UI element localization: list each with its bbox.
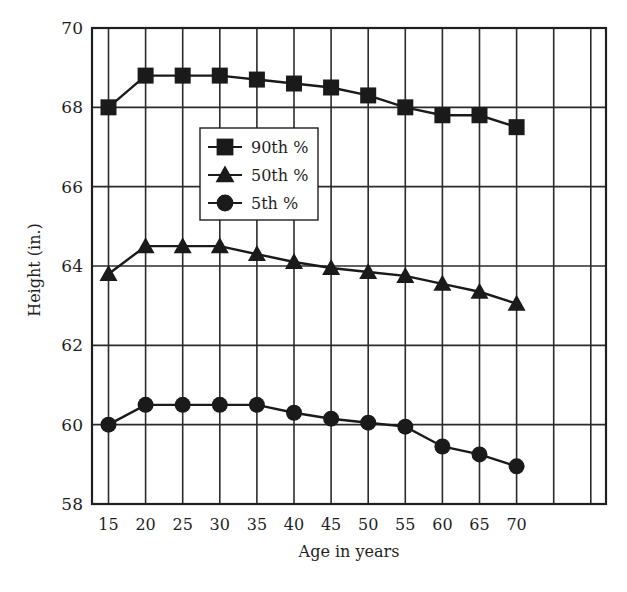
x-tick-label: 25 bbox=[173, 515, 193, 534]
series-circle bbox=[101, 397, 525, 474]
x-tick-label: 70 bbox=[506, 515, 526, 534]
circle-marker bbox=[472, 446, 488, 462]
x-tick-label: 50 bbox=[358, 515, 378, 534]
square-marker bbox=[217, 139, 234, 156]
circle-marker bbox=[138, 397, 154, 413]
y-tick-label: 58 bbox=[61, 494, 83, 514]
legend-label: 5th % bbox=[251, 194, 298, 213]
x-tick-label: 65 bbox=[469, 515, 489, 534]
x-tick-label: 40 bbox=[284, 515, 304, 534]
square-marker bbox=[175, 68, 191, 84]
x-tick-label: 35 bbox=[247, 515, 267, 534]
square-marker bbox=[434, 107, 450, 123]
y-tick-label: 62 bbox=[61, 335, 83, 355]
circle-marker bbox=[509, 458, 525, 474]
x-tick-label: 20 bbox=[135, 515, 155, 534]
square-marker bbox=[138, 68, 154, 84]
circle-marker bbox=[397, 419, 413, 435]
square-marker bbox=[323, 80, 339, 96]
circle-marker bbox=[101, 417, 117, 433]
y-tick-label: 64 bbox=[61, 256, 83, 276]
legend-label: 90th % bbox=[251, 138, 308, 157]
circle-marker bbox=[286, 405, 302, 421]
y-tick-label: 60 bbox=[61, 415, 83, 435]
circle-marker bbox=[434, 438, 450, 454]
y-tick-label: 66 bbox=[61, 177, 83, 197]
circle-marker bbox=[175, 397, 191, 413]
square-marker bbox=[101, 99, 117, 115]
square-marker bbox=[286, 76, 302, 92]
series-line bbox=[109, 246, 517, 304]
legend: 90th %50th %5th % bbox=[200, 128, 318, 220]
series-triangle bbox=[100, 237, 526, 311]
square-marker bbox=[472, 107, 488, 123]
plot-grid bbox=[92, 28, 606, 504]
circle-marker bbox=[212, 397, 228, 413]
y-tick-label: 68 bbox=[61, 97, 83, 117]
square-marker bbox=[249, 72, 265, 88]
x-tick-label: 60 bbox=[432, 515, 452, 534]
circle-marker bbox=[360, 415, 376, 431]
series-square bbox=[101, 68, 525, 136]
circle-marker bbox=[217, 195, 234, 212]
x-axis-tick-labels: 152025303540455055606570 bbox=[98, 515, 526, 534]
circle-marker bbox=[323, 411, 339, 427]
square-marker bbox=[360, 87, 376, 103]
circle-marker bbox=[249, 397, 265, 413]
x-axis-title: Age in years bbox=[298, 542, 400, 561]
x-tick-label: 15 bbox=[98, 515, 118, 534]
x-tick-label: 30 bbox=[210, 515, 230, 534]
triangle-marker bbox=[100, 265, 118, 281]
series-line bbox=[109, 405, 517, 466]
height-by-age-chart: 58606264666870 152025303540455055606570 … bbox=[0, 0, 627, 592]
series-line bbox=[109, 76, 517, 128]
x-tick-label: 45 bbox=[321, 515, 341, 534]
legend-item: 90th % bbox=[208, 138, 308, 157]
square-marker bbox=[509, 119, 525, 135]
y-axis-tick-labels: 58606264666870 bbox=[61, 18, 83, 514]
legend-item: 5th % bbox=[208, 194, 298, 213]
square-marker bbox=[397, 99, 413, 115]
y-tick-label: 70 bbox=[61, 18, 83, 38]
y-axis-title: Height (in.) bbox=[25, 223, 44, 317]
square-marker bbox=[212, 68, 228, 84]
x-tick-label: 55 bbox=[395, 515, 415, 534]
legend-label: 50th % bbox=[251, 166, 308, 185]
